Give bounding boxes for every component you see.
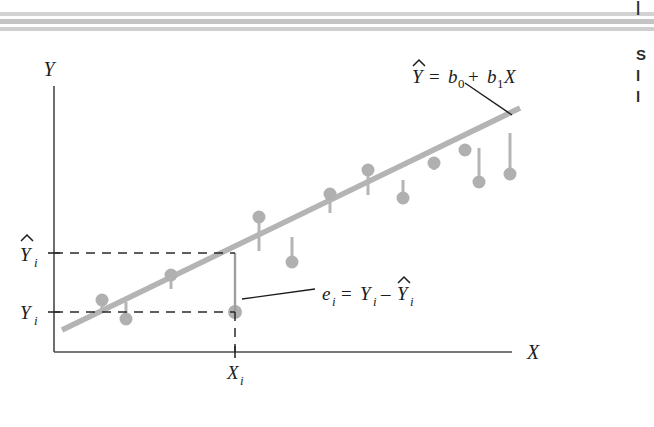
axis-ticks bbox=[48, 253, 235, 358]
reg-eq-plus: + bbox=[468, 66, 479, 87]
y-hat-i-label-text: Y bbox=[20, 244, 33, 265]
data-point bbox=[286, 256, 299, 269]
reg-eq-yhat: Y bbox=[412, 66, 425, 87]
y-hat-i-hat-accent bbox=[21, 235, 33, 241]
y-i-label-text: Y bbox=[20, 302, 33, 323]
data-point bbox=[459, 144, 472, 157]
residual-equation-label: e i = Y i – Y i bbox=[322, 277, 414, 309]
reg-eq-b1: b bbox=[487, 66, 497, 87]
reg-eq-b0: b bbox=[448, 66, 458, 87]
res-eq-y: Y bbox=[360, 283, 373, 304]
x-i-label: X i bbox=[226, 362, 244, 388]
y-i-label-subscript: i bbox=[34, 313, 38, 328]
x-i-label-subscript: i bbox=[240, 373, 244, 388]
x-i-label-text: X bbox=[226, 362, 240, 383]
data-point bbox=[324, 188, 337, 201]
data-point bbox=[504, 168, 517, 181]
data-point bbox=[397, 192, 410, 205]
res-eq-equals: = bbox=[341, 283, 352, 304]
regression-equation-leader-line bbox=[465, 83, 512, 115]
guide-lines bbox=[54, 253, 235, 352]
data-point bbox=[165, 269, 178, 282]
reg-eq-b0-subscript: 0 bbox=[458, 76, 465, 91]
residual-annotation-leader-line bbox=[242, 289, 315, 299]
y-axis-label: Y bbox=[43, 58, 56, 80]
data-point bbox=[120, 313, 133, 326]
res-eq-minus: – bbox=[380, 283, 391, 304]
data-point bbox=[428, 157, 441, 170]
y-hat-i-label: Y i bbox=[20, 235, 38, 270]
data-point bbox=[96, 294, 109, 307]
reg-eq-x: X bbox=[503, 66, 517, 87]
figure-page: | S l l bbox=[0, 0, 654, 427]
x-axis-label: X bbox=[526, 341, 540, 363]
reg-eq-b1-subscript: 1 bbox=[497, 76, 504, 91]
data-points bbox=[96, 144, 517, 326]
regression-equation-label: Y = b 0 + b 1 X bbox=[412, 60, 517, 91]
res-eq-y-subscript: i bbox=[373, 294, 377, 309]
data-point bbox=[253, 211, 266, 224]
fitted-regression-line bbox=[62, 108, 520, 330]
res-eq-yhat: Y bbox=[397, 283, 410, 304]
y-i-label: Y i bbox=[20, 302, 38, 328]
regression-residual-diagram: Y X Y i Y i X i Y = b 0 + b 1 X bbox=[0, 0, 654, 427]
residual-stems bbox=[102, 133, 510, 317]
reg-eq-equals: = bbox=[429, 66, 440, 87]
data-point bbox=[473, 176, 486, 189]
res-eq-yhat-subscript: i bbox=[410, 294, 414, 309]
res-eq-e-subscript: i bbox=[332, 294, 336, 309]
data-point bbox=[362, 164, 375, 177]
res-eq-e: e bbox=[322, 283, 330, 304]
y-hat-i-label-subscript: i bbox=[34, 255, 38, 270]
